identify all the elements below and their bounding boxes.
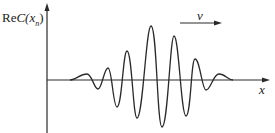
y-label-func: C(x <box>16 10 35 25</box>
y-axis-label: ReC(xn) <box>2 10 44 28</box>
velocity-label: v <box>197 8 203 24</box>
y-axis-arrow-icon <box>45 3 50 11</box>
wave-packet-figure: ReC(xn) x v <box>0 0 275 133</box>
velocity-arrowhead-icon <box>214 21 222 26</box>
y-label-suffix: ) <box>39 10 43 25</box>
wave-packet-curve <box>70 26 233 127</box>
x-axis-label: x <box>259 82 265 98</box>
y-label-prefix: Re <box>2 10 16 25</box>
